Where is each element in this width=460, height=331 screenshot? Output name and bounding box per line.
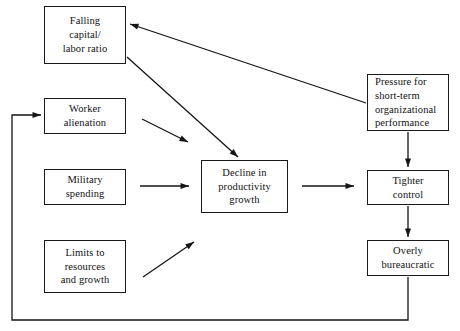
edge-worker-alienation-to-decline-arrowhead	[179, 136, 189, 145]
node-label-worker-alienation: Worker alienation	[61, 102, 109, 130]
node-overly-bureaucratic[interactable]: Overly bureaucratic	[367, 240, 449, 276]
flowchart-diagram: Falling capital/ labor ratioWorker alien…	[0, 0, 460, 331]
node-label-overly-bureaucratic: Overly bureaucratic	[378, 244, 437, 272]
node-military-spending[interactable]: Military spending	[44, 169, 126, 205]
node-pressure-for-short-term-organizational-performance[interactable]: Pressure for short-term organizational p…	[367, 74, 449, 131]
edge-falling-capital-to-decline-line	[127, 57, 238, 157]
node-label-pressure-for-short-term-organizational-performance: Pressure for short-term organizational p…	[368, 75, 448, 130]
node-tighter-control[interactable]: Tighter control	[367, 170, 449, 205]
edge-overly-bureaucratic-feedback-to-worker-alienation-arrowhead	[33, 112, 42, 118]
edge-limits-to-decline-line	[143, 242, 194, 277]
node-label-decline-in-productivity-growth: Decline in productivity growth	[215, 166, 274, 208]
node-label-tighter-control: Tighter control	[389, 174, 426, 202]
node-worker-alienation[interactable]: Worker alienation	[44, 98, 126, 134]
edge-decline-to-tighter-control-arrowhead	[346, 183, 355, 189]
edge-pressure-to-tighter-control-arrowhead	[405, 159, 411, 168]
edge-falling-capital-to-decline	[127, 57, 240, 159]
edge-worker-alienation-to-decline	[142, 119, 189, 145]
edge-limits-to-decline-arrowhead	[185, 240, 195, 250]
edge-limits-to-decline	[143, 240, 196, 277]
edge-tighter-control-to-overly-bureaucratic	[405, 206, 411, 237]
node-limits-to-resources-and-growth[interactable]: Limits to resources and growth	[44, 240, 126, 293]
node-label-falling-capital-labor-ratio: Falling capital/ labor ratio	[60, 14, 111, 56]
node-decline-in-productivity-growth[interactable]: Decline in productivity growth	[201, 160, 288, 213]
node-label-military-spending: Military spending	[63, 173, 108, 201]
node-falling-capital-labor-ratio[interactable]: Falling capital/ labor ratio	[44, 6, 126, 64]
edge-decline-to-tighter-control	[302, 183, 354, 189]
edge-military-spending-to-decline-arrowhead	[181, 183, 190, 189]
edge-military-spending-to-decline	[140, 183, 189, 189]
edge-pressure-to-falling-capital-arrowhead	[129, 21, 139, 29]
edge-pressure-to-tighter-control	[405, 132, 411, 167]
edge-tighter-control-to-overly-bureaucratic-arrowhead	[405, 229, 411, 238]
node-label-limits-to-resources-and-growth: Limits to resources and growth	[58, 246, 113, 288]
